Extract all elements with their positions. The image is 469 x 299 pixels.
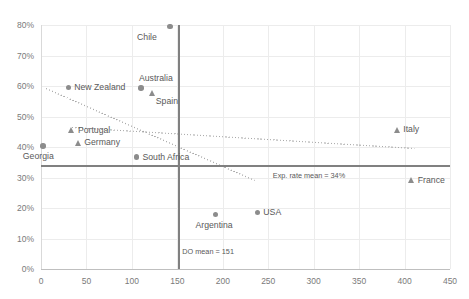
data-point-marker[interactable] bbox=[75, 140, 81, 146]
data-point-marker[interactable] bbox=[40, 143, 46, 149]
gridline-horizontal bbox=[41, 239, 450, 240]
data-point-label: Chile bbox=[137, 32, 157, 42]
y-axis-tick-label: 10% bbox=[2, 234, 34, 244]
do-mean-label: DO mean = 151 bbox=[182, 247, 234, 256]
data-point-label: Georgia bbox=[23, 151, 54, 161]
gridline-vertical bbox=[268, 25, 269, 269]
gridline-horizontal bbox=[41, 56, 450, 57]
y-axis-tick-label: 80% bbox=[2, 20, 34, 30]
data-point-marker[interactable] bbox=[149, 90, 155, 96]
flat-trendline bbox=[72, 127, 415, 149]
gridline-vertical bbox=[314, 25, 315, 269]
y-axis-tick-label: 70% bbox=[2, 51, 34, 61]
x-axis-tick-label: 0 bbox=[26, 276, 56, 286]
gridline-horizontal bbox=[41, 117, 450, 118]
x-axis-tick-label: 200 bbox=[208, 276, 238, 286]
data-point-label: New Zealand bbox=[74, 82, 125, 92]
data-point-marker[interactable] bbox=[255, 210, 261, 216]
x-axis-tick-label: 350 bbox=[344, 276, 374, 286]
data-point-label: South Africa bbox=[142, 152, 189, 162]
y-axis-tick-label: 30% bbox=[2, 173, 34, 183]
data-point-label: Germany bbox=[84, 137, 120, 147]
exp-rate-mean-line bbox=[41, 165, 450, 166]
y-axis-tick-label: 20% bbox=[2, 203, 34, 213]
y-axis-tick-label: 50% bbox=[2, 112, 34, 122]
y-axis-tick-label: 60% bbox=[2, 81, 34, 91]
x-axis-tick-label: 150 bbox=[162, 276, 192, 286]
data-point-label: Spain bbox=[156, 96, 178, 106]
gridline-horizontal bbox=[41, 25, 450, 26]
data-point-marker[interactable] bbox=[68, 127, 74, 133]
data-point-marker[interactable] bbox=[408, 177, 414, 183]
data-point-label: Australia bbox=[139, 73, 173, 83]
x-axis-tick-label: 250 bbox=[253, 276, 283, 286]
do-mean-line bbox=[178, 25, 179, 269]
data-point-marker[interactable] bbox=[167, 24, 173, 30]
data-point-label: Italy bbox=[403, 124, 419, 134]
gridline-vertical bbox=[450, 25, 451, 269]
x-axis-tick-label: 100 bbox=[117, 276, 147, 286]
data-point-label: Portugal bbox=[78, 125, 110, 135]
data-point-label: USA bbox=[263, 207, 281, 217]
gridline-vertical bbox=[223, 25, 224, 269]
gridline-vertical bbox=[132, 25, 133, 269]
data-point-marker[interactable] bbox=[66, 85, 72, 91]
exp-rate-mean-label: Exp. rate mean = 34% bbox=[273, 171, 345, 180]
x-axis-line bbox=[41, 269, 450, 270]
data-point-marker[interactable] bbox=[394, 127, 400, 133]
gridline-horizontal bbox=[41, 208, 450, 209]
scatter-chart: 0%10%20%30%40%50%60%70%80%05010015020025… bbox=[0, 0, 469, 299]
data-point-marker[interactable] bbox=[138, 85, 144, 91]
data-point-marker[interactable] bbox=[213, 212, 219, 218]
data-point-marker[interactable] bbox=[134, 154, 140, 160]
x-axis-tick-label: 400 bbox=[390, 276, 420, 286]
gridline-horizontal bbox=[41, 178, 450, 179]
data-point-label: Argentina bbox=[196, 220, 233, 230]
x-axis-tick-label: 450 bbox=[435, 276, 465, 286]
data-point-label: France bbox=[418, 175, 445, 185]
x-axis-tick-label: 50 bbox=[71, 276, 101, 286]
gridline-vertical bbox=[359, 25, 360, 269]
x-axis-tick-label: 300 bbox=[299, 276, 329, 286]
y-axis-tick-label: 0% bbox=[2, 264, 34, 274]
